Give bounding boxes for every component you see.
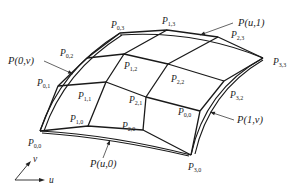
v-axis-label: v: [33, 154, 38, 164]
control-point-label: P2,2: [170, 74, 184, 85]
control-point-label: P0,1: [36, 78, 50, 89]
boundary-curve-label: P(u,0): [89, 158, 117, 170]
control-point-label: P0,3: [110, 20, 124, 31]
leader-line: [200, 23, 233, 35]
arrowhead-icon: [210, 112, 215, 115]
boundary-curve-label: P(1,v): [236, 114, 263, 126]
uv-axes: u v: [15, 154, 54, 185]
net-row-0: [40, 126, 191, 155]
control-point-label: P0,0: [27, 138, 41, 149]
boundary-curve-label: P(u,1): [237, 17, 265, 29]
control-point-label: P1,1: [77, 91, 91, 102]
control-point-label: P3,2: [229, 90, 243, 101]
control-point-label: P1,0: [69, 114, 83, 125]
control-point-label: P1,2: [123, 61, 137, 72]
control-point-label: P2,1: [128, 95, 142, 106]
u-axis-label: u: [49, 175, 54, 185]
u-arrowhead-icon: [39, 178, 45, 182]
bicubic-surface-diagram: P0,0P1,0P2,0P3,0P0,1P1,1P2,1P0,0P0,2P1,2…: [0, 0, 297, 190]
boundary-curve-label: P(0,v): [7, 55, 34, 67]
control-point-label: P1,3: [161, 16, 175, 27]
control-point-label: P3,3: [272, 57, 286, 68]
curve-0v: [40, 33, 120, 131]
v-axis-arrow: [15, 163, 29, 180]
net-col-0: [40, 33, 120, 131]
control-point-label: P2,0: [121, 121, 135, 132]
curve-1v-inner: [195, 60, 263, 154]
control-point-label: P0,2: [59, 48, 73, 59]
curve-u0-inner: [42, 133, 189, 156]
curve-1v: [191, 58, 263, 155]
control-point-label: P3,0: [187, 162, 201, 173]
net-col-1: [88, 30, 167, 126]
control-point-label: P2,3: [230, 30, 244, 41]
net-col-3: [191, 58, 263, 155]
arrowhead-icon: [200, 32, 205, 35]
net-row-2: [87, 54, 224, 81]
